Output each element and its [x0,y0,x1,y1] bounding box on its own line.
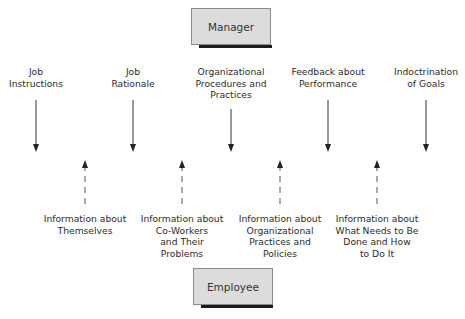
label-line: to Do It [336,248,419,260]
arrowhead-up-icon [374,160,380,168]
arrowhead-up-icon [179,160,185,168]
arrowhead-down-icon [33,144,39,152]
label-line: Organizational [239,225,322,237]
label-line: Information about [336,213,419,225]
label-line: Information about [44,213,127,225]
label-line: Policies [239,248,322,260]
employee-label: Employee [207,281,259,293]
down-arrows [33,100,429,152]
arrowhead-up-icon [277,160,283,168]
up-label-what-needs: Information about What Needs to Be Done … [336,213,419,259]
label-line: What Needs to Be [336,225,419,237]
label-line: Information about [239,213,322,225]
arrowhead-down-icon [228,144,234,152]
arrowhead-down-icon [423,144,429,152]
up-arrows [82,160,380,204]
arrowhead-up-icon [82,160,88,168]
label-line: Co-Workers [141,225,224,237]
label-line: Information about [141,213,224,225]
arrowhead-down-icon [325,144,331,152]
label-line: and Their [141,236,224,248]
employee-node: Employee [193,268,273,305]
up-label-themselves: Information about Themselves [44,213,127,236]
label-line: Practices and [239,236,322,248]
up-label-org-practices: Information about Organizational Practic… [239,213,322,259]
arrowhead-down-icon [130,144,136,152]
label-line: Problems [141,248,224,260]
label-line: Themselves [44,225,127,237]
up-label-coworkers: Information about Co-Workers and Their P… [141,213,224,259]
label-line: Done and How [336,236,419,248]
employee-node-shadow [201,305,273,308]
